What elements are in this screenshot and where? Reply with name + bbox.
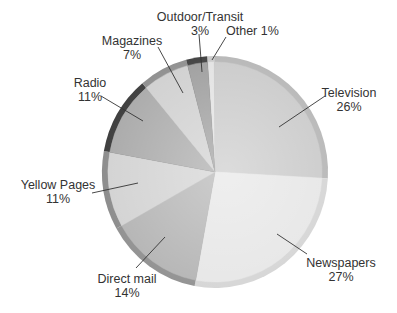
- label-pct: 14%: [92, 286, 162, 300]
- label-pct: 11%: [18, 192, 98, 206]
- label-other: Other 1%: [226, 24, 279, 38]
- label-name: Magazines: [97, 34, 167, 48]
- label-pct: 26%: [316, 100, 382, 114]
- label-magazines: Magazines 7%: [97, 34, 167, 62]
- label-pct: 11%: [65, 90, 115, 104]
- label-name: Newspapers: [302, 256, 380, 270]
- label-radio: Radio 11%: [65, 76, 115, 104]
- label-name: Television: [316, 86, 382, 100]
- label-pct: 27%: [302, 270, 380, 284]
- label-television: Television 26%: [316, 86, 382, 114]
- label-name: Other 1%: [226, 24, 279, 38]
- label-pct: 7%: [97, 48, 167, 62]
- label-name: Direct mail: [92, 272, 162, 286]
- label-name: Radio: [65, 76, 115, 90]
- label-name: Yellow Pages: [18, 178, 98, 192]
- label-direct-mail: Direct mail 14%: [92, 272, 162, 300]
- label-name: Outdoor/Transit: [150, 10, 250, 24]
- pie-slice-television: [214, 62, 322, 178]
- label-yellow-pages: Yellow Pages 11%: [18, 178, 98, 206]
- label-newspapers: Newspapers 27%: [302, 256, 380, 284]
- pie-slices: [102, 56, 328, 288]
